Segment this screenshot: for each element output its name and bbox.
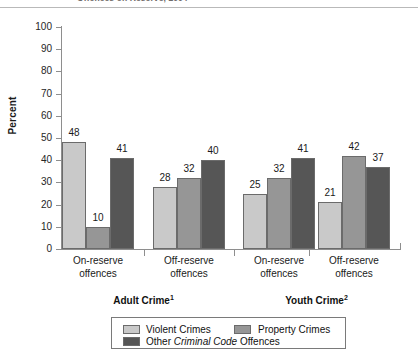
legend-label: Violent Crimes	[146, 324, 211, 335]
legend-swatch	[123, 325, 140, 334]
bar	[62, 142, 86, 249]
x-axis-category-label: On-reserveoffences	[52, 255, 144, 280]
y-axis-tick	[56, 71, 61, 72]
x-axis-category-label: Off-reserveoffences	[308, 255, 400, 280]
super-group-text: Youth Crime	[285, 295, 344, 306]
super-group-text: Adult Crime	[113, 295, 170, 306]
bar	[366, 167, 390, 249]
legend-label-part: Offences	[237, 336, 280, 347]
y-axis-tick-label: 0	[4, 244, 52, 254]
y-axis-tick-label: 40	[4, 155, 52, 165]
bar	[86, 227, 110, 249]
bar	[243, 194, 267, 250]
bar	[201, 160, 225, 249]
y-axis-tick	[56, 116, 61, 117]
category-label-line: Off-reserve	[308, 255, 400, 268]
footnote-marker: 1	[170, 294, 174, 301]
bar-value-label: 48	[61, 128, 87, 138]
y-axis-tick	[56, 249, 61, 250]
y-axis-title: Percent	[7, 86, 18, 146]
bar-value-label: 41	[109, 144, 135, 154]
legend-swatch	[234, 325, 251, 334]
x-axis-category-label: Off-reserveoffences	[143, 255, 235, 280]
bar-value-label: 37	[365, 153, 391, 163]
legend-swatch	[123, 337, 140, 346]
y-axis-tick	[56, 227, 61, 228]
legend-label-italic-part: Criminal Code	[174, 336, 237, 347]
bar	[342, 156, 366, 249]
bar	[110, 158, 134, 249]
bar-value-label: 10	[85, 213, 111, 223]
category-label-line: offences	[52, 268, 144, 281]
bar-value-label: 21	[317, 188, 343, 198]
bar-value-label: 32	[266, 164, 292, 174]
y-axis-tick-labels: 0102030405060708090100	[0, 0, 52, 364]
category-label-line: Off-reserve	[143, 255, 235, 268]
y-axis-tick-label: 20	[4, 200, 52, 210]
y-axis-tick-label: 80	[4, 66, 52, 76]
y-axis-tick-label: 90	[4, 44, 52, 54]
legend-label-part: Other	[146, 336, 174, 347]
y-axis-tick-label: 30	[4, 177, 52, 187]
bar-value-label: 32	[176, 164, 202, 174]
bar	[153, 187, 177, 249]
y-axis-tick-label: 10	[4, 222, 52, 232]
category-label-line: offences	[143, 268, 235, 281]
bar-value-label: 40	[200, 146, 226, 156]
legend-label: Other Criminal Code Offences	[146, 336, 280, 347]
bar	[177, 178, 201, 249]
y-axis-tick	[56, 49, 61, 50]
x-axis-line	[61, 249, 401, 250]
bar-value-label: 42	[341, 142, 367, 152]
chart-legend: Violent CrimesProperty CrimesOther Crimi…	[111, 317, 346, 349]
y-axis-tick-label: 100	[4, 22, 52, 32]
y-axis-tick	[56, 182, 61, 183]
y-axis-tick	[56, 94, 61, 95]
bar-value-label: 41	[290, 144, 316, 154]
category-label-line: On-reserve	[52, 255, 144, 268]
category-label-line: offences	[308, 268, 400, 281]
y-axis-tick	[56, 27, 61, 28]
super-group-label: Adult Crime1	[64, 292, 224, 306]
bar	[318, 202, 342, 249]
bar-chart: 0102030405060708090100 Percent 481041283…	[0, 0, 418, 364]
bar	[267, 178, 291, 249]
super-group-label: Youth Crime2	[237, 292, 397, 306]
footnote-marker: 2	[344, 294, 348, 301]
legend-label: Property Crimes	[258, 324, 330, 335]
bar	[291, 158, 315, 249]
y-axis-tick	[56, 205, 61, 206]
x-axis-end-tick	[400, 243, 401, 250]
bar-value-label: 28	[152, 173, 178, 183]
bar-value-label: 25	[242, 180, 268, 190]
y-axis-tick	[56, 160, 61, 161]
